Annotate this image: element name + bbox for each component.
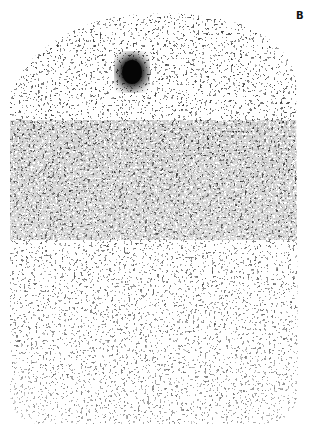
panel-label: B: [296, 11, 304, 21]
scintigraphy-image: [0, 0, 310, 430]
scan-figure: B: [0, 0, 310, 430]
